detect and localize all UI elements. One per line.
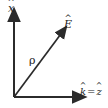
magnitude-label: ρ [29,55,35,66]
vector-diagram-figure: ^ x ^ E ^ k = ^ z ρ [0,0,108,108]
vertical-axis-label: ^ x [8,3,14,14]
e-field-vector-arrow [14,35,61,98]
hat-accent-icon: ^ [8,0,15,6]
hat-accent-icon-k: ^ [80,82,87,90]
vector-arrow-accent-icon: ^ [64,14,71,23]
hat-accent-icon-z: ^ [96,82,103,90]
e-field-vector-label: ^ E [64,19,72,30]
horizontal-axis-label: ^ k = ^ z [80,87,102,97]
